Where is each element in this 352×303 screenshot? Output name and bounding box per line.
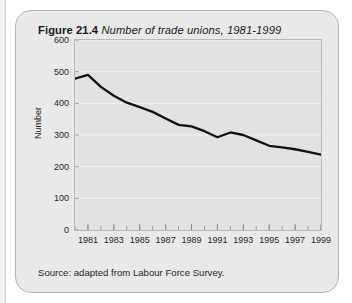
x-tick-label: 1999 <box>311 235 331 245</box>
figure-title: Figure 21.4 Number of trade unions, 1981… <box>38 24 281 36</box>
y-axis-title: Number <box>33 125 43 139</box>
x-tick-label: 1991 <box>207 235 227 245</box>
y-tick-label: 200 <box>54 162 69 172</box>
y-axis-tick-labels: 0100200300400500600 <box>44 39 72 235</box>
y-tick-label: 500 <box>54 67 69 77</box>
y-tick-label: 0 <box>64 225 69 235</box>
x-axis-tick-labels: 1981198319851987198919911993199519971999 <box>74 235 322 253</box>
y-tick-label: 300 <box>54 130 69 140</box>
plot-area <box>74 39 322 231</box>
y-tick-label: 400 <box>54 98 69 108</box>
x-tick-label: 1989 <box>182 235 202 245</box>
x-tick-label: 1995 <box>259 235 279 245</box>
page-edge-highlight <box>0 0 3 303</box>
x-tick-label: 1983 <box>104 235 124 245</box>
chart-area: Number 0100200300400500600 1981198319851… <box>30 39 326 261</box>
page-edge-line <box>4 0 6 303</box>
x-tick-label: 1987 <box>156 235 176 245</box>
y-tick-label: 100 <box>54 193 69 203</box>
figure-card: Figure 21.4 Number of trade unions, 1981… <box>15 10 339 293</box>
gridlines <box>75 40 321 198</box>
x-tick-label: 1997 <box>285 235 305 245</box>
line-chart-svg <box>75 40 321 230</box>
data-series-line <box>75 75 321 155</box>
y-tick-label: 600 <box>54 35 69 45</box>
source-note: Source: adapted from Labour Force Survey… <box>38 267 224 278</box>
figure-caption: Number of trade unions, 1981-1999 <box>101 24 281 36</box>
x-tick-label: 1993 <box>233 235 253 245</box>
y-major-ticks <box>75 40 79 230</box>
x-tick-label: 1981 <box>78 235 98 245</box>
x-minor-ticks <box>75 226 321 230</box>
x-tick-label: 1985 <box>130 235 150 245</box>
